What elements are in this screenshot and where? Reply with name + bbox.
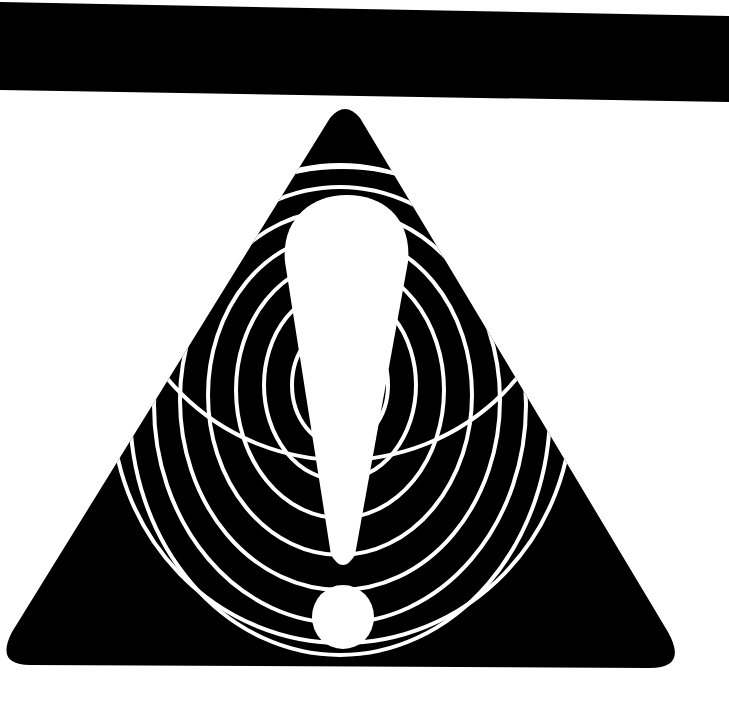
warning-graphic: warning sign (0, 0, 729, 707)
exclamation-dot (312, 585, 374, 649)
top-bar (0, 2, 729, 102)
warning-sign-svg (0, 0, 729, 707)
